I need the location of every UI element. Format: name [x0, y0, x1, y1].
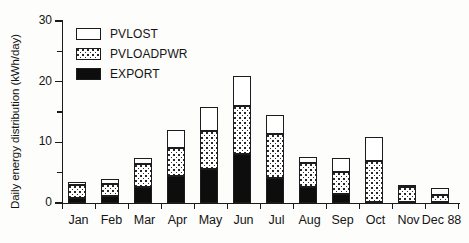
x-tick: [95, 204, 96, 209]
bar-segment-pvlost: [134, 158, 152, 164]
legend-item-export: EXPORT: [76, 65, 188, 82]
x-tick: [359, 204, 360, 209]
bar-segment-pvloadpwr: [266, 134, 284, 178]
bar-segment-export: [332, 194, 350, 203]
bar-segment-export: [266, 178, 284, 203]
legend-label: PVLOST: [110, 27, 158, 41]
chart-legend: PVLOST PVLOADPWR EXPORT: [76, 25, 188, 85]
bar-segment-pvlost: [68, 182, 86, 185]
bar-nov: [398, 21, 416, 203]
bar-segment-export: [68, 198, 86, 203]
bar-segment-pvlost: [233, 76, 251, 106]
legend-label: PVLOADPWR: [110, 47, 188, 61]
white-swatch-icon: [76, 28, 101, 40]
bar-segment-pvloadpwr: [134, 164, 152, 187]
x-tick: [260, 204, 261, 209]
x-tick: [293, 204, 294, 209]
bar-segment-export: [365, 202, 383, 204]
x-tick: [128, 204, 129, 209]
bar-segment-pvloadpwr: [398, 187, 416, 202]
x-tick: [62, 204, 63, 209]
bar-segment-export: [299, 187, 317, 203]
bar-segment-pvlost: [365, 137, 383, 160]
bar-segment-pvloadpwr: [233, 106, 251, 155]
x-tick: [326, 204, 327, 209]
bar-segment-pvlost: [431, 188, 449, 195]
bar-segment-pvlost: [266, 115, 284, 134]
bar-jun: [233, 21, 251, 203]
bar-segment-export: [431, 202, 449, 204]
bar-segment-export: [167, 176, 185, 203]
y-tick-label: 10: [22, 135, 52, 147]
bar-segment-pvlost: [101, 179, 119, 184]
legend-label: EXPORT: [110, 67, 160, 81]
legend-item-pvlost: PVLOST: [76, 25, 188, 42]
x-tick: [392, 204, 393, 209]
y-tick-label: 0: [22, 196, 52, 208]
bar-segment-pvloadpwr: [365, 161, 383, 202]
bar-jul: [266, 21, 284, 203]
bar-segment-export: [200, 169, 218, 203]
bar-dec-88: [431, 21, 449, 203]
bar-segment-export: [134, 187, 152, 203]
bar-sep: [332, 21, 350, 203]
bar-segment-pvlost: [200, 107, 218, 131]
bar-segment-pvloadpwr: [431, 195, 449, 203]
bar-oct: [365, 21, 383, 203]
bar-aug: [299, 21, 317, 203]
x-tick-label: Dec 88: [420, 213, 464, 227]
x-tick: [161, 204, 162, 209]
x-tick: [425, 204, 426, 209]
x-tick: [194, 204, 195, 209]
bar-segment-pvlost: [167, 130, 185, 148]
bar-may: [200, 21, 218, 203]
bar-segment-export: [101, 196, 119, 203]
bar-segment-export: [398, 202, 416, 204]
bar-segment-export: [233, 154, 251, 203]
stippled-swatch-icon: [76, 48, 101, 60]
x-tick: [458, 204, 459, 209]
bar-segment-pvlost: [299, 157, 317, 163]
black-swatch-icon: [76, 68, 101, 80]
bar-segment-pvloadpwr: [167, 148, 185, 175]
bar-segment-pvloadpwr: [299, 163, 317, 187]
x-tick: [227, 204, 228, 209]
bar-segment-pvlost: [398, 185, 416, 187]
y-tick-label: 30: [22, 14, 52, 26]
y-tick-label: 20: [22, 75, 52, 87]
bar-segment-pvloadpwr: [332, 172, 350, 194]
bar-segment-pvloadpwr: [68, 185, 86, 198]
daily-energy-distribution-chart: Daily energy distribution (kWh/day) 0102…: [0, 0, 469, 243]
legend-item-pvloadpwr: PVLOADPWR: [76, 45, 188, 62]
bar-segment-pvloadpwr: [200, 131, 218, 169]
bar-segment-pvloadpwr: [101, 184, 119, 196]
bar-segment-pvlost: [332, 158, 350, 173]
